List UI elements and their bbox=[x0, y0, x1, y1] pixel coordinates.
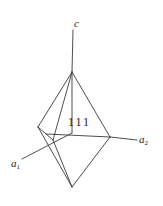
edge-left-to-front bbox=[38, 127, 53, 140]
axis-label-c-text: c bbox=[74, 17, 79, 29]
axis-a2-line bbox=[110, 137, 137, 140]
edge-apex-to-left bbox=[38, 72, 72, 127]
edge-apex-to-front bbox=[53, 72, 72, 140]
axis-c-line bbox=[72, 30, 73, 72]
axis-label-c: c bbox=[74, 18, 79, 29]
edge-bottom-to-right bbox=[72, 137, 110, 187]
dipyramid-edges-group bbox=[38, 72, 110, 187]
crystal-axes-group bbox=[22, 30, 137, 159]
axis-label-a2: a2 bbox=[139, 134, 148, 147]
axis-label-a1: a1 bbox=[11, 158, 20, 171]
face-index-label: 111 bbox=[68, 116, 91, 128]
crystal-dipyramid-drawing bbox=[0, 0, 163, 206]
axis-a1-line bbox=[22, 133, 72, 159]
crystal-form-figure: c a1 a2 111 bbox=[0, 0, 163, 206]
axis-label-a1-subscript: 1 bbox=[17, 163, 21, 171]
edge-bottom-to-front bbox=[53, 140, 72, 187]
axis-label-a2-subscript: 2 bbox=[145, 139, 149, 147]
edge-girdle-left-to-right bbox=[46, 134, 110, 137]
